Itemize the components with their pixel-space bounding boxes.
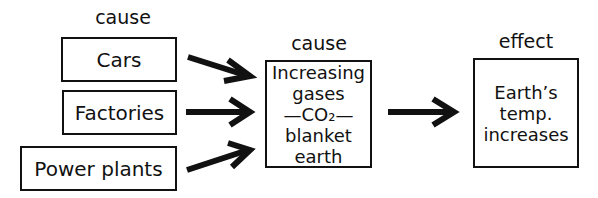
- arrow-icon: [388, 99, 454, 125]
- arrow-icon: [188, 57, 250, 81]
- arrow-icon: [186, 99, 250, 125]
- arrow-icon: [187, 143, 250, 170]
- arrows: [0, 0, 598, 198]
